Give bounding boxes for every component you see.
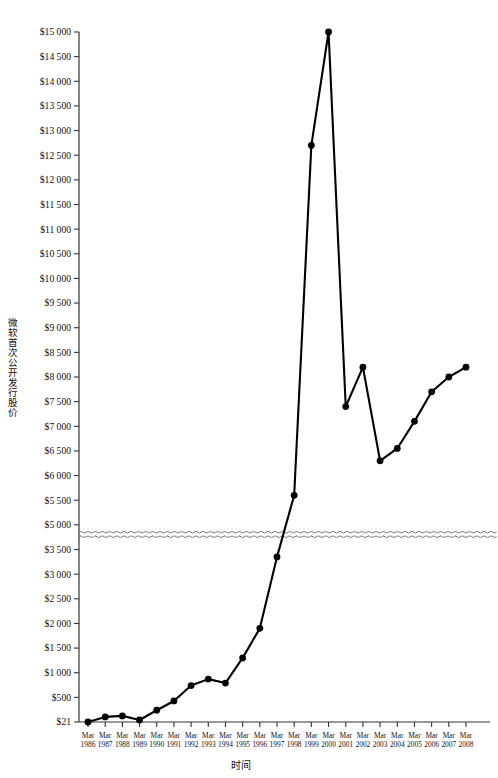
data-point-marker [445, 374, 452, 381]
x-axis-tick-group: Mar1986Mar1987Mar1988Mar1989Mar1990Mar19… [81, 722, 474, 749]
x-tick-label-month: Mar [151, 731, 164, 740]
data-point-marker [153, 707, 160, 714]
y-tick-label: $14 000 [40, 76, 71, 87]
data-point-marker [136, 717, 143, 724]
axis-break-marker [79, 531, 497, 537]
x-tick-label-year: 1987 [98, 740, 113, 749]
series-line-path [88, 32, 466, 722]
x-tick-label-year: 1998 [287, 740, 302, 749]
x-tick-label-year: 1999 [304, 740, 319, 749]
x-tick-label-year: 2008 [459, 740, 474, 749]
x-tick-label-year: 1992 [184, 740, 199, 749]
y-tick-label: $12 000 [40, 174, 71, 185]
x-tick-label-year: 2003 [373, 740, 388, 749]
x-tick-label-month: Mar [219, 731, 232, 740]
y-tick-label: $6 000 [45, 470, 72, 481]
line-chart: $15 000$14 500$14 000$13 500$13 000$12 5… [0, 0, 498, 778]
data-point-marker [428, 388, 435, 395]
data-point-marker [188, 682, 195, 689]
x-tick-label-year: 2002 [356, 740, 371, 749]
x-tick-label-month: Mar [408, 731, 421, 740]
data-point-marker [463, 364, 470, 371]
y-tick-label: $7 000 [45, 421, 72, 432]
y-tick-label: $5 500 [45, 495, 72, 506]
y-tick-label: $11 000 [40, 224, 71, 235]
x-tick-label-year: 1990 [149, 740, 164, 749]
data-point-marker [256, 625, 263, 632]
y-tick-label: $3 500 [45, 544, 72, 555]
data-point-marker [360, 364, 367, 371]
x-tick-label-year: 2007 [441, 740, 456, 749]
y-axis-tick-group: $15 000$14 500$14 000$13 500$13 000$12 5… [40, 26, 79, 727]
x-tick-label-month: Mar [443, 731, 456, 740]
data-point-marker [308, 142, 315, 149]
x-tick-label-month: Mar [374, 731, 387, 740]
data-point-marker [205, 676, 212, 683]
chart-container: $15 000$14 500$14 000$13 500$13 000$12 5… [0, 0, 498, 778]
y-tick-label: $6 500 [45, 445, 72, 456]
axis-break-wave [79, 531, 497, 533]
x-tick-label-month: Mar [340, 731, 353, 740]
x-tick-label-year: 2004 [390, 740, 405, 749]
x-tick-label-year: 1995 [235, 740, 250, 749]
y-tick-label: $13 000 [40, 125, 71, 136]
y-tick-label: $1 500 [45, 642, 72, 653]
y-tick-label: $21 [57, 716, 72, 727]
y-tick-label: $10 000 [40, 273, 71, 284]
x-tick-label-year: 2005 [407, 740, 422, 749]
x-tick-label-month: Mar [305, 731, 318, 740]
x-tick-label-month: Mar [99, 731, 112, 740]
data-point-marker [394, 445, 401, 452]
data-point-marker [411, 418, 418, 425]
x-tick-label-month: Mar [236, 731, 249, 740]
y-tick-label: $9 000 [45, 322, 72, 333]
x-tick-label-month: Mar [133, 731, 146, 740]
x-tick-label-year: 1993 [201, 740, 216, 749]
y-tick-label: $7 500 [45, 396, 72, 407]
x-tick-label-year: 2000 [321, 740, 336, 749]
x-tick-label-month: Mar [254, 731, 267, 740]
y-tick-label: $8 500 [45, 347, 72, 358]
x-tick-label-year: 1997 [270, 740, 285, 749]
x-tick-label-month: Mar [185, 731, 198, 740]
series-marker-group [85, 29, 470, 726]
data-point-marker [377, 457, 384, 464]
x-axis-title: 时间 [231, 757, 251, 772]
data-point-marker [239, 655, 246, 662]
axis-break-wave [79, 536, 497, 538]
x-tick-label-month: Mar [168, 731, 181, 740]
y-tick-label: $11 500 [40, 199, 71, 210]
x-tick-label-month: Mar [202, 731, 215, 740]
data-point-marker [171, 698, 178, 705]
y-axis-title: 微软首次公开发行股价 [1, 318, 17, 418]
x-tick-label-year: 1989 [132, 740, 147, 749]
y-tick-label: $12 500 [40, 150, 71, 161]
y-tick-label: $13 500 [40, 100, 71, 111]
x-tick-label-month: Mar [460, 731, 473, 740]
data-point-marker [325, 29, 332, 36]
x-tick-label-month: Mar [322, 731, 335, 740]
y-tick-label: $5 000 [45, 519, 72, 530]
y-tick-label: $8 000 [45, 371, 72, 382]
x-tick-label-year: 1986 [81, 740, 96, 749]
y-tick-label: $14 500 [40, 51, 71, 62]
y-tick-label: $3 000 [45, 569, 72, 580]
x-tick-label-month: Mar [425, 731, 438, 740]
x-tick-label-year: 1991 [167, 740, 182, 749]
data-point-marker [119, 712, 126, 719]
axis-lines [79, 32, 490, 722]
y-tick-label: $500 [52, 692, 71, 703]
x-tick-label-year: 2006 [424, 740, 439, 749]
data-point-marker [274, 553, 281, 560]
x-tick-label-year: 1994 [218, 740, 233, 749]
y-tick-label: $10 500 [40, 248, 71, 259]
data-point-marker [342, 403, 349, 410]
data-point-marker [291, 492, 298, 499]
x-tick-label-year: 1996 [252, 740, 267, 749]
y-tick-label: $15 000 [40, 26, 71, 37]
x-tick-label-year: 1988 [115, 740, 130, 749]
y-tick-label: $1 000 [45, 667, 72, 678]
y-tick-label: $9 500 [45, 297, 72, 308]
data-point-marker [85, 719, 92, 726]
x-tick-label-month: Mar [288, 731, 301, 740]
